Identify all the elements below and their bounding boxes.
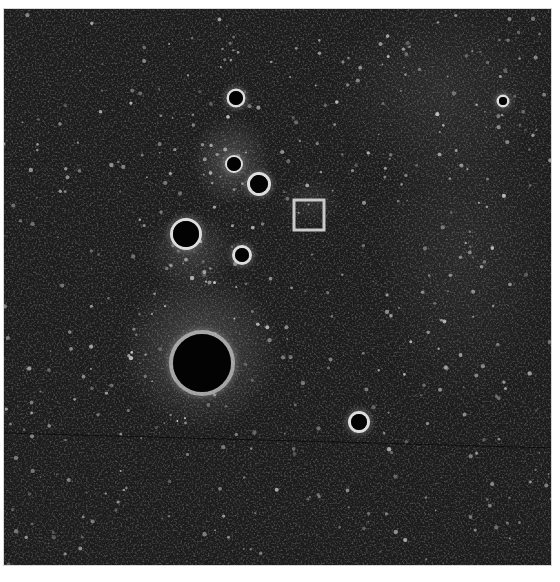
hole (224, 86, 249, 111)
hole (167, 215, 205, 253)
hole (494, 92, 513, 111)
hole (222, 152, 246, 176)
speckle-noise (4, 9, 552, 566)
hole (345, 408, 373, 436)
micrograph-image (3, 8, 552, 566)
micrograph-canvas (4, 9, 552, 566)
hole (229, 242, 255, 268)
hole (244, 169, 274, 199)
hole (166, 327, 238, 399)
